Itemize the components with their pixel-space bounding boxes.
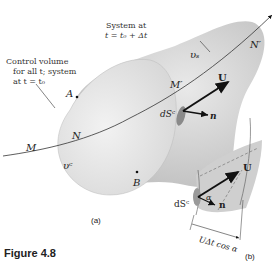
system-note: System at t = t₀ + Δt xyxy=(105,21,147,41)
system-note-line2: t = t₀ + Δt xyxy=(105,31,147,41)
system-note-line1: System at xyxy=(105,21,147,31)
area-dSc-label: dSᶜ xyxy=(160,110,175,119)
normal-n-label: n xyxy=(210,112,217,121)
inset-ext-1 xyxy=(190,215,194,230)
point-N-prime-label: N′ xyxy=(250,40,261,50)
volume-s-label: υₛ xyxy=(190,50,199,60)
velocity-U-label: U xyxy=(218,73,227,83)
volume-c-label: υᶜ xyxy=(63,161,73,171)
point-B-label: B xyxy=(133,178,140,188)
inset-dSc-label: dSᶜ xyxy=(174,200,189,209)
figure-caption: Figure 4.8 xyxy=(4,247,56,259)
point-M-prime-label: M′ xyxy=(170,80,183,90)
cv-leader xyxy=(36,84,55,108)
point-M-label: M xyxy=(26,143,36,153)
inset-alpha-label: α xyxy=(206,194,211,202)
inset-n-label: n xyxy=(219,201,226,210)
point-B-dot xyxy=(136,171,139,174)
point-N-label: N xyxy=(72,131,81,141)
cv-note-line1: Control volume xyxy=(6,57,76,67)
cv-note-line3: at t = t₀ xyxy=(6,77,76,87)
cv-note-line2: for all t; system xyxy=(6,67,76,77)
part-b-label: (b) xyxy=(245,253,255,261)
part-a-label: (a) xyxy=(91,217,101,225)
point-A-dot xyxy=(76,96,79,99)
point-A-label: A xyxy=(66,89,73,99)
inset-U-label: U xyxy=(243,163,252,173)
cv-note: Control volume for all t; system at t = … xyxy=(6,57,76,87)
